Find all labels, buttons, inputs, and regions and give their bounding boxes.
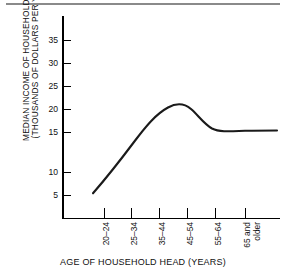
x-axis-title: AGE OF HOUSEHOLD HEAD (YEARS) — [0, 257, 286, 267]
income-curve-path — [93, 104, 277, 193]
plot-area: 35 30 25 20 15 10 5 20–24 25–34 35–44 45… — [0, 0, 286, 278]
chart-figure: MEDIAN INCOME OF HOUSEHOLD HEAD (THOUSAN… — [0, 0, 286, 278]
data-line-series — [0, 0, 286, 278]
